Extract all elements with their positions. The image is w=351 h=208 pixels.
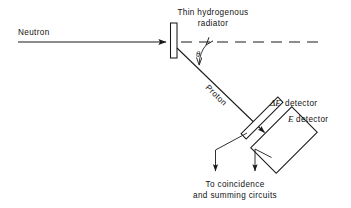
radiator-label-line2: radiator: [198, 19, 229, 28]
e-symbol-label: E: [287, 114, 294, 124]
output-label-line2: and summing circuits: [193, 191, 277, 200]
e-detector-label: detector: [296, 115, 328, 124]
figure-canvas: Neutron Thin hydrogenous radiator θ Prot…: [0, 0, 351, 208]
delta-e-detector-label: detector: [285, 99, 317, 108]
radiator-group: [171, 23, 178, 58]
neutron-label: Neutron: [18, 28, 50, 37]
theta-angle-group: [199, 45, 206, 65]
radiator-label-line1: Thin hydrogenous: [177, 8, 248, 17]
proton-ray-arrow: [177, 48, 265, 133]
delta-e-symbol-label: ΔE: [269, 98, 281, 108]
proton-ray-group: [177, 48, 265, 133]
proton-label-group: Proton: [204, 83, 229, 108]
theta-arc: [199, 45, 206, 65]
theta-label: θ: [196, 49, 200, 59]
neutron-telescope-diagram: Neutron Thin hydrogenous radiator θ Prot…: [0, 0, 351, 208]
output-label-line1: To coincidence: [205, 180, 264, 189]
proton-label: Proton: [204, 83, 229, 108]
radiator-slab: [171, 23, 178, 58]
delta-e-signal-lead-group: [216, 133, 248, 171]
delta-e-signal-lead: [216, 133, 248, 171]
